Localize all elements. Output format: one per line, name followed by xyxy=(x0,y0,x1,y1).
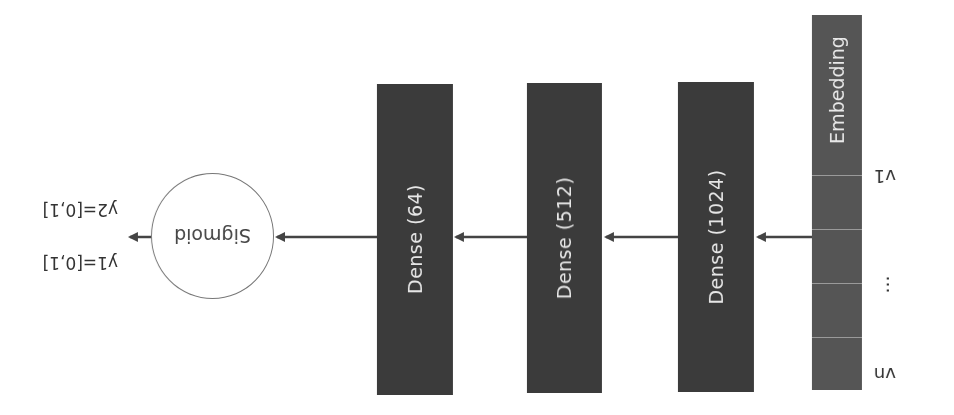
diagram-canvas: Embedding v1 … vn Dense (1024) Dense (51… xyxy=(0,0,954,415)
dense-64-label: Dense (64) xyxy=(404,185,426,295)
token-vn: vn xyxy=(874,364,896,385)
dense-layer-512: Dense (512) xyxy=(527,83,602,393)
embedding-divider xyxy=(812,175,862,176)
dense-1024-label: Dense (1024) xyxy=(705,169,727,304)
embedding-divider xyxy=(812,283,862,284)
token-v1: v1 xyxy=(874,166,896,187)
output-y1: y1=[0,1] xyxy=(43,253,118,273)
sigmoid-node: Sigmoid xyxy=(151,173,274,299)
token-ellipsis: … xyxy=(873,276,894,294)
embedding-divider xyxy=(812,229,862,230)
sigmoid-label: Sigmoid xyxy=(174,225,251,247)
output-y2: y2=[0,1] xyxy=(43,200,118,220)
embedding-block: Embedding xyxy=(812,15,862,390)
dense-512-label: Dense (512) xyxy=(554,177,576,300)
dense-layer-64: Dense (64) xyxy=(377,84,453,395)
dense-layer-1024: Dense (1024) xyxy=(678,82,754,392)
connection-arrows xyxy=(0,0,954,415)
embedding-divider xyxy=(812,337,862,338)
embedding-label: Embedding xyxy=(826,36,848,144)
